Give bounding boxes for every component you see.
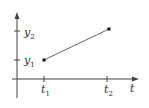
data-segment <box>44 29 109 60</box>
line-segment-diagram: y2 y1 t1 t2 t <box>0 0 149 108</box>
y2-label: y2 <box>23 26 35 41</box>
point-1 <box>43 59 46 62</box>
t2-label: t2 <box>104 83 113 98</box>
x-axis-arrow-icon <box>132 77 139 82</box>
point-2 <box>108 28 111 31</box>
x-axis-label: t <box>130 82 135 95</box>
y-axis-arrow-icon <box>15 12 20 19</box>
y1-label: y1 <box>23 54 35 69</box>
t1-label: t1 <box>41 83 50 98</box>
